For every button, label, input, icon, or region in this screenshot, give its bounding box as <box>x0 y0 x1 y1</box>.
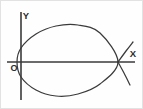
x-axis-label: X <box>130 48 137 59</box>
curve-lower-right-branch <box>118 62 130 85</box>
y-axis-label: Y <box>23 10 30 21</box>
figure-container: Y X O <box>0 0 143 109</box>
curve-figure-svg: Y X O <box>0 0 143 109</box>
curve-loop-path <box>17 24 118 96</box>
origin-label: O <box>10 63 17 73</box>
